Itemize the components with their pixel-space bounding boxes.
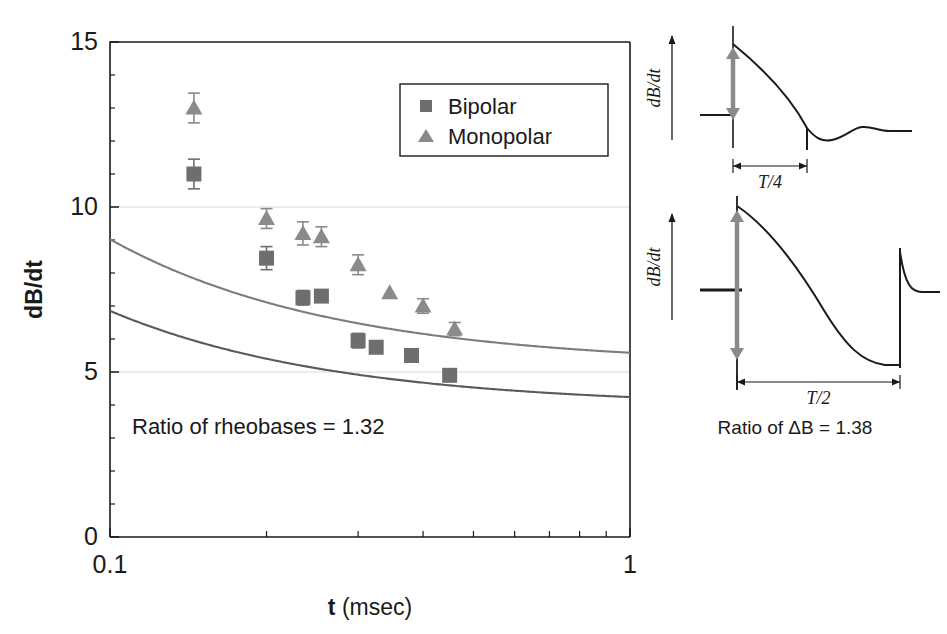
marker-triangle (415, 298, 432, 313)
marker-triangle (381, 284, 398, 299)
lower-trace (737, 206, 900, 365)
marker-square (442, 368, 457, 383)
legend-marker-square[interactable] (420, 100, 432, 112)
legend-label[interactable]: Bipolar (448, 94, 516, 119)
marker-square (186, 167, 201, 182)
y-tick-label: 5 (84, 357, 98, 385)
waveform-caption: Ratio of ΔB = 1.38 (718, 417, 873, 438)
marker-triangle (258, 210, 275, 225)
lower-ylabel-text: dB/dt (644, 247, 664, 287)
lower-duration-label: T/2 (806, 388, 830, 408)
marker-triangle (294, 225, 311, 240)
lower-delta-arrow-head-down (730, 348, 744, 360)
waveform-panel-lower: dB/dtT/2 (644, 196, 940, 408)
marker-square (314, 289, 329, 304)
marker-triangle (313, 228, 330, 243)
marker-square (404, 348, 419, 363)
upper-ylabel-arrow-head (669, 35, 676, 44)
marker-triangle (350, 256, 367, 271)
upper-duration-head-left (733, 163, 741, 170)
lower-delta-arrow-head-up (730, 210, 744, 222)
lower-trace-tail (900, 252, 940, 292)
lower-duration-head-left (737, 379, 745, 386)
x-axis-title: t (msec) (328, 594, 412, 620)
upper-duration-label: T/4 (758, 172, 782, 192)
marker-square (369, 340, 384, 355)
y-tick-label: 10 (70, 192, 98, 220)
x-tick-label: 1 (623, 550, 637, 578)
legend-label[interactable]: Monopolar (448, 124, 552, 149)
marker-triangle (185, 100, 202, 115)
x-axis-title-text: t (msec) (328, 594, 412, 620)
waveform-panel-upper: dB/dtT/4 (644, 26, 912, 192)
fit-curves (110, 239, 630, 397)
y-tick-label: 0 (84, 522, 98, 550)
lower-ylabel-arrow-head (669, 213, 676, 222)
lower-duration-head-right (892, 379, 900, 386)
figure-canvas: 0510150.11dB/dtt (msec)BipolarMonopolarR… (0, 0, 947, 634)
upper-duration-head-right (799, 163, 807, 170)
upper-trace (733, 44, 912, 150)
marker-square (259, 251, 274, 266)
figure-root: 0510150.11dB/dtt (msec)BipolarMonopolarR… (0, 0, 947, 634)
fit-curve-monopolar (110, 239, 630, 353)
x-axis-title-unit: (msec) (336, 594, 413, 620)
rheobase-ratio-annotation: Ratio of rheobases = 1.32 (132, 414, 385, 439)
y-axis-title: dB/dt (21, 260, 47, 319)
x-tick-label: 0.1 (93, 550, 128, 578)
marker-square (295, 290, 310, 305)
legend: BipolarMonopolar (400, 84, 608, 156)
y-tick-label: 15 (70, 27, 98, 55)
upper-ylabel-text: dB/dt (644, 68, 664, 108)
marker-square (351, 333, 366, 348)
